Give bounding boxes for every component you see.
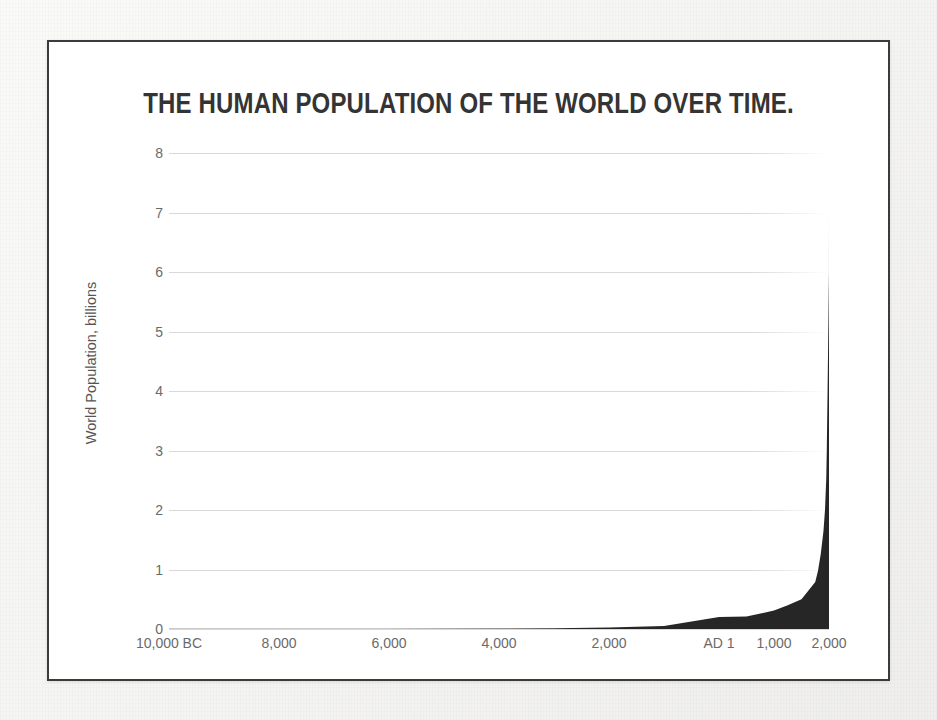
- x-axis-tick-label: AD 1: [703, 636, 734, 650]
- figure-frame: THE HUMAN POPULATION OF THE WORLD OVER T…: [47, 40, 890, 681]
- population-area-path: [169, 213, 829, 630]
- x-axis-tick-label: 4,000: [481, 636, 516, 650]
- x-axis-line: [169, 629, 829, 630]
- x-axis-tick-label: 10,000 BC: [136, 636, 202, 650]
- plot-area: World Population, billions 012345678 10,…: [49, 42, 892, 683]
- x-axis-tick-label: 2,000: [811, 636, 846, 650]
- x-axis-tick-label: 8,000: [261, 636, 296, 650]
- x-axis-tick-label: 2,000: [591, 636, 626, 650]
- x-axis-tick-label: 6,000: [371, 636, 406, 650]
- x-axis-tick-label: 1,000: [756, 636, 791, 650]
- population-area-series: [49, 42, 892, 683]
